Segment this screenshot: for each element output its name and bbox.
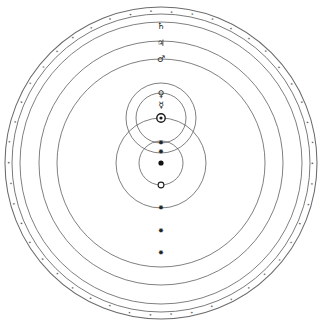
earth-body xyxy=(158,160,163,165)
fixed-star-icon: ✶ xyxy=(288,240,293,245)
fixed-star-icon: ✶ xyxy=(8,140,12,144)
fixed-star-icon: ✶ xyxy=(149,9,152,13)
node-jupiter-lower-icon: ✸ xyxy=(158,227,164,235)
fixed-star-icon: ✶ xyxy=(310,162,314,165)
fixed-star-icon: ✶ xyxy=(89,295,94,300)
fixed-star-icon: ✶ xyxy=(289,82,294,87)
fixed-star-icon: ✶ xyxy=(277,257,282,262)
fixed-star-icon: ✶ xyxy=(209,304,213,309)
fixed-star-icon: ✶ xyxy=(55,49,60,54)
fixed-star-icon: ✶ xyxy=(19,221,24,225)
fixed-star-icon: ✶ xyxy=(210,17,214,22)
label-mercury: ☿ xyxy=(158,100,164,110)
moon-body xyxy=(158,182,164,188)
fixed-star-icon: ✶ xyxy=(263,49,268,54)
label-mars: ♂ xyxy=(157,54,165,64)
fixed-star-icon: ✶ xyxy=(299,100,304,104)
fixed-star-icon: ✶ xyxy=(28,81,33,86)
sun-body xyxy=(157,114,165,122)
fixed-star-icon: ✶ xyxy=(149,312,152,316)
fixed-star-icon: ✶ xyxy=(71,35,76,40)
fixed-star-icon: ✶ xyxy=(70,285,75,290)
label-saturn: ♄ xyxy=(157,21,165,31)
node-mars-lower-icon: ✸ xyxy=(158,204,164,212)
fixed-star-icon: ✶ xyxy=(9,182,13,186)
node-venus-lower-icon: ✸ xyxy=(158,139,164,147)
moon-circle-icon xyxy=(158,182,164,188)
cosmology-diagram: ✶✶✶✶✶✶✶✶✶✶✶✶✶✶✶✶✶✶✶✶✶✶✶✶✶✶✶✶✶✶✶✶✶✶✶✶✶✶✶✶… xyxy=(0,0,321,326)
label-jupiter: ♃ xyxy=(157,38,165,48)
fixed-star-icon: ✶ xyxy=(229,297,234,302)
fixed-star-icon: ✶ xyxy=(247,36,252,41)
label-venus: ♀ xyxy=(158,89,165,99)
fixed-star-icon: ✶ xyxy=(169,312,172,316)
fixed-star-icon: ✶ xyxy=(305,120,310,124)
fixed-star-icon: ✶ xyxy=(170,10,173,14)
orbit-canvas: ✶✶✶✶✶✶✶✶✶✶✶✶✶✶✶✶✶✶✶✶✶✶✶✶✶✶✶✶✶✶✶✶✶✶✶✶✶✶✶✶… xyxy=(0,0,321,326)
fixed-star-icon: ✶ xyxy=(306,202,311,206)
fixed-star-icon: ✶ xyxy=(246,285,251,290)
fixed-star-icon: ✶ xyxy=(310,141,314,145)
sun-center-dot-icon xyxy=(159,116,162,119)
planet-labels: ♄ ♃ ♂ ♀ ☿ xyxy=(157,21,165,110)
fixed-star-icon: ✶ xyxy=(13,120,18,124)
fixed-star-icon: ✶ xyxy=(108,17,112,22)
node-saturn-lower-icon: ✸ xyxy=(158,249,164,257)
fixed-star-icon: ✶ xyxy=(128,310,132,315)
fixed-star-icon: ✶ xyxy=(7,161,11,164)
earth-dot-icon xyxy=(158,160,163,165)
fixed-star-icon: ✶ xyxy=(28,240,33,245)
fixed-star-icon: ✶ xyxy=(190,310,194,315)
node-markers: ✸ ✸ ✸ ✸ ✸ xyxy=(158,139,164,257)
fixed-star-icon: ✶ xyxy=(12,202,17,206)
fixed-star-icon: ✶ xyxy=(309,182,313,186)
fixed-star-icon: ✶ xyxy=(129,13,133,18)
fixed-star-icon: ✶ xyxy=(190,12,194,17)
fixed-star-icon: ✶ xyxy=(40,256,45,261)
node-mercury-lower-icon: ✸ xyxy=(158,148,164,156)
fixed-star-icon: ✶ xyxy=(19,100,24,104)
